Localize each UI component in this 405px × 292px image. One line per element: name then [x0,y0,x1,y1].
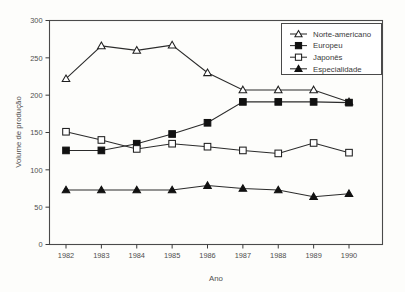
y-tick-label: 300 [30,16,42,25]
y-tick-label: 150 [30,128,42,137]
y-axis-ticks: 050100150200250300 [30,16,49,249]
legend-label: Norte-americano [313,30,372,39]
x-axis-ticks: 198219831984198519861987198819891990 [58,245,357,260]
data-point [98,137,105,144]
data-point [204,182,212,189]
data-point [240,147,247,154]
legend-marker [295,43,301,49]
x-tick-label: 1986 [199,251,215,260]
y-tick-label: 50 [34,203,42,212]
data-point [168,41,176,48]
data-point [204,69,212,76]
data-point [345,190,353,197]
x-tick-label: 1982 [58,251,74,260]
x-tick-label: 1989 [305,251,321,260]
data-point [98,42,106,49]
x-tick-label: 1988 [270,251,286,260]
production-volume-line-chart: 050100150200250300 198219831984198519861… [0,0,405,292]
x-tick-label: 1983 [93,251,109,260]
y-tick-label: 100 [30,166,42,175]
data-point [98,147,105,154]
data-point [275,99,282,106]
chart-figure: 050100150200250300 198219831984198519861… [0,0,405,292]
y-tick-label: 200 [30,91,42,100]
data-point [63,147,70,154]
data-point [204,119,211,126]
legend-marker [295,54,301,60]
x-tick-label: 1984 [129,251,145,260]
legend-label: Especialidade [313,65,362,74]
y-tick-label: 0 [38,240,42,249]
x-axis-title: Ano [209,274,224,283]
x-tick-label: 1985 [164,251,180,260]
data-point [310,99,317,106]
data-point [275,150,282,157]
data-point [204,143,211,150]
chart-legend: Norte-americanoEuropeuJaponêsEspecialida… [282,24,382,75]
data-point [63,128,70,135]
legend-label: Europeu [313,41,342,50]
y-tick-label: 250 [30,54,42,63]
data-point [240,99,247,106]
series-especialidade [62,182,353,200]
data-point [310,140,317,147]
x-tick-label: 1990 [341,251,357,260]
data-point [346,99,353,106]
series-japon-s [63,128,353,156]
legend-label: Japonês [313,53,343,62]
y-axis-title: Volume de produção [14,96,23,168]
x-tick-label: 1987 [235,251,251,260]
data-point [346,149,353,156]
data-point [169,140,176,147]
data-point [169,131,176,138]
data-point [133,146,140,153]
